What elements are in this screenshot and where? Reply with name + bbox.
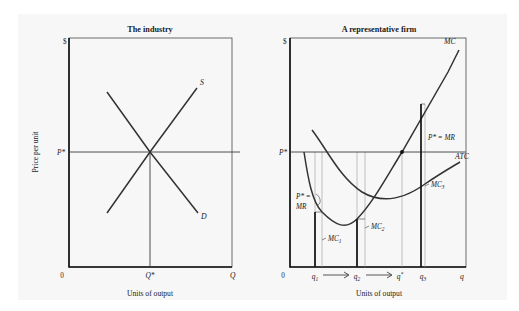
mc-equals-mr-point	[400, 150, 404, 154]
panel-firm: A representative firm $	[278, 25, 470, 298]
firm-x-axis-name: q	[460, 272, 464, 281]
mc-curve-label: MC	[443, 37, 456, 46]
mc2-label: MC2	[370, 223, 385, 232]
firm-origin-label: 0	[281, 272, 285, 280]
economics-figure: The industry $ S D P* 0 Q* Q Units of ou…	[0, 0, 519, 311]
arrow-q2-to-qstar	[366, 272, 392, 278]
arrow-q1-to-q2	[323, 272, 349, 278]
mc3-label: MC3	[430, 181, 445, 190]
industry-y-axis-caption: Price per unit	[31, 131, 40, 173]
industry-panel-title: The industry	[127, 25, 173, 34]
supply-curve-label: S	[200, 78, 204, 87]
panel-industry: The industry $ S D P* 0 Q* Q Units of ou…	[31, 25, 240, 298]
figure-page: The industry $ S D P* 0 Q* Q Units of ou…	[0, 0, 519, 311]
price-equals-mr-left-label-line2: MR	[295, 203, 307, 211]
mc2-leader	[365, 226, 369, 228]
firm-price-tick-label: P*	[278, 148, 288, 157]
industry-price-tick-label: P*	[56, 148, 66, 157]
industry-y-axis-unit: $	[63, 38, 67, 46]
industry-x-axis-caption: Units of output	[127, 289, 174, 298]
firm-y-axis-unit: $	[283, 38, 287, 46]
firm-x-tick-q2: q2	[354, 272, 361, 282]
firm-x-tick-q3: q3	[420, 272, 427, 282]
firm-x-tick-q1: q1	[312, 272, 319, 282]
firm-axes	[290, 38, 466, 267]
industry-quantity-tick-label: Q*	[145, 271, 154, 280]
firm-x-axis-caption: Units of output	[356, 289, 403, 298]
price-equals-mr-right-label: P* = MR	[427, 134, 455, 142]
industry-x-axis-name: Q	[230, 271, 236, 280]
mc1-label: MC1	[327, 235, 342, 244]
mc1-leader	[322, 238, 326, 240]
firm-x-tick-qstar: q*	[397, 271, 404, 281]
atc-curve-label: ATC	[454, 152, 470, 161]
industry-origin-label: 0	[60, 272, 64, 280]
firm-plot-border	[290, 38, 466, 267]
price-equals-mr-left-label-line1: P* =	[295, 193, 311, 201]
demand-curve-label: D	[200, 212, 207, 221]
firm-panel-title: A representative firm	[342, 25, 417, 34]
